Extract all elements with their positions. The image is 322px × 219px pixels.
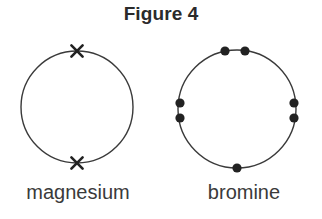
magnesium-electrons — [71, 45, 82, 168]
magnesium-diagram — [21, 45, 133, 168]
dot-top-left — [220, 46, 229, 55]
dot-right-lower — [289, 113, 298, 122]
dot-left-upper — [175, 98, 184, 107]
bromine-shell-circle — [178, 50, 296, 168]
magnesium-shell-circle — [21, 51, 133, 163]
dot-left-lower — [175, 113, 184, 122]
bromine-electrons — [175, 46, 298, 172]
figure-container: Figure 4 — [0, 0, 322, 219]
dot-bottom — [232, 163, 241, 172]
dot-right-upper — [289, 98, 298, 107]
dot-top-right — [240, 46, 249, 55]
bromine-diagram — [175, 46, 298, 172]
atom-label-bromine: bromine — [168, 180, 320, 204]
atom-label-magnesium: magnesium — [2, 180, 154, 204]
